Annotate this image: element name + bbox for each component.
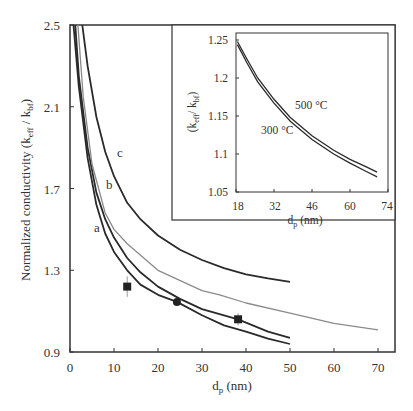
inset-label-300c: 300 °C — [261, 124, 294, 136]
x-tick-label: 20 — [152, 360, 165, 375]
x-tick-label: 10 — [108, 360, 121, 375]
y-tick-label: 0.9 — [44, 345, 60, 360]
x-axis-title: dp (nm) — [212, 378, 252, 395]
y-tick-label: 1.7 — [44, 182, 61, 197]
y-tick-label: 1.3 — [44, 263, 60, 278]
inset-y-tick-label: 1.15 — [208, 110, 228, 122]
y-tick-label: 2.5 — [44, 18, 60, 33]
inset-background — [172, 25, 395, 220]
curve-label-b: b — [106, 177, 113, 192]
inset-x-axis-title: dp (nm) — [288, 214, 323, 229]
square-marker — [123, 283, 131, 291]
inset-y-tick-label: 1.1 — [214, 148, 229, 160]
y-axis-title: Normalized conductivity (keff / kbf) — [18, 99, 35, 281]
inset-x-tick-label: 60 — [344, 200, 356, 212]
x-tick-label: 40 — [240, 360, 253, 375]
inset-x-tick-label: 32 — [269, 200, 281, 212]
inset-y-tick-label: 1.05 — [208, 186, 228, 198]
inset-x-tick-label: 18 — [232, 200, 244, 212]
inset-x-tick-label: 74 — [381, 200, 393, 212]
x-tick-label: 30 — [196, 360, 209, 375]
circle-marker — [173, 298, 181, 306]
curve-label-a: a — [94, 220, 100, 235]
x-tick-label: 60 — [328, 360, 341, 375]
chart: 2.5 2.1 1.7 1.3 0.9 0 10 20 30 40 50 60 … — [0, 0, 413, 411]
curve-label-c: c — [117, 145, 123, 160]
x-tick-label: 70 — [372, 360, 385, 375]
inset-y-tick-label: 1.2 — [214, 72, 229, 84]
x-tick-label: 50 — [284, 360, 297, 375]
x-tick-label: 0 — [67, 360, 74, 375]
square-marker — [234, 315, 242, 323]
inset-y-tick-label: 1.25 — [208, 34, 228, 46]
inset-x-tick-label: 46 — [306, 200, 318, 212]
y-tick-label: 2.1 — [44, 100, 60, 115]
inset-label-500c: 500 °C — [295, 99, 328, 111]
